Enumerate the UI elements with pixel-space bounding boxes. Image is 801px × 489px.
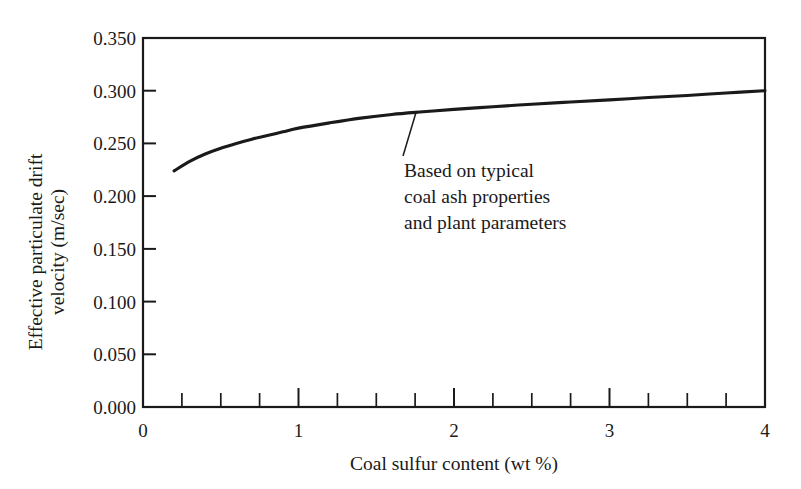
x-tick-label: 0 (138, 420, 148, 441)
annotation-line-2: coal ash properties (404, 186, 550, 207)
chart-canvas: 0.000 0.050 0.100 0.150 0.200 0.250 (0, 0, 801, 489)
y-tick-group-7: 0.350 (93, 28, 136, 49)
data-series-line (174, 91, 765, 171)
x-tick-label: 2 (449, 420, 459, 441)
x-tick-label: 1 (294, 420, 304, 441)
y-axis: 0.000 0.050 0.100 0.150 0.200 0.250 (93, 28, 156, 418)
chart-figure: 0.000 0.050 0.100 0.150 0.200 0.250 (0, 0, 801, 489)
y-tick-group-3: 0.150 (93, 239, 156, 260)
y-axis-title-line-1: Effective particulate drift (25, 153, 46, 350)
x-tick-group-0: 0 (138, 420, 148, 441)
y-tick-group-0: 0.000 (93, 397, 156, 418)
y-tick-label: 0.000 (93, 397, 136, 418)
x-tick-group-4: 4 (760, 420, 770, 441)
y-tick-label: 0.300 (93, 81, 136, 102)
x-axis-title: Coal sulfur content (wt %) (350, 453, 558, 475)
x-tick-group-2: 2 (449, 388, 459, 441)
annotation-text-block: Based on typical coal ash properties and… (404, 160, 566, 233)
y-tick-label: 0.050 (93, 344, 136, 365)
x-tick-label: 3 (605, 420, 615, 441)
y-tick-group-6: 0.300 (93, 81, 156, 102)
x-axis: 0 1 2 3 4 (138, 388, 770, 441)
annotation-leader-line (403, 113, 416, 157)
y-tick-label: 0.250 (93, 133, 136, 154)
y-tick-group-4: 0.200 (93, 186, 156, 207)
y-tick-group-1: 0.050 (93, 344, 156, 365)
y-axis-title-line-2: velocity (m/sec) (47, 189, 69, 315)
y-tick-label: 0.350 (93, 28, 136, 49)
x-tick-label: 4 (760, 420, 770, 441)
y-tick-label: 0.150 (93, 239, 136, 260)
y-tick-label: 0.100 (93, 292, 136, 313)
y-tick-group-5: 0.250 (93, 133, 156, 154)
annotation-line-3: and plant parameters (404, 212, 566, 233)
y-axis-title: Effective particulate drift velocity (m/… (25, 153, 69, 350)
annotation-line-1: Based on typical (404, 160, 535, 181)
x-tick-group-1: 1 (294, 388, 304, 441)
x-tick-group-3: 3 (605, 388, 615, 441)
y-tick-label: 0.200 (93, 186, 136, 207)
y-tick-group-2: 0.100 (93, 292, 156, 313)
